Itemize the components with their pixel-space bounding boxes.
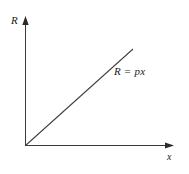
data-line-r-equals-px: [26, 49, 134, 146]
line-equation-label: R = px: [114, 66, 145, 77]
x-axis-label: x: [167, 152, 171, 162]
y-axis-arrowhead: [22, 16, 28, 25]
y-axis-label: R: [11, 15, 18, 26]
plot-area: [0, 0, 189, 174]
x-axis-arrowhead: [165, 142, 174, 148]
figure-canvas: R x R = px: [0, 0, 189, 174]
